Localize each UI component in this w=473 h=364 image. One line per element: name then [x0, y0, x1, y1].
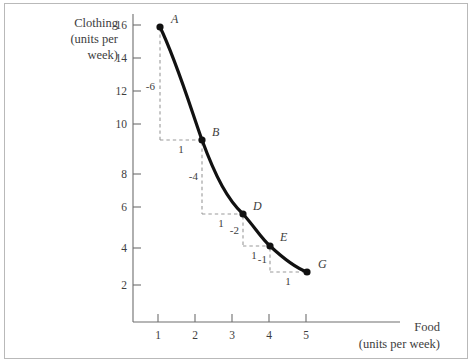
y-axis-title: Clothing (units per week) — [70, 16, 118, 62]
data-point-e[interactable] — [266, 242, 273, 249]
data-point-label-e: E — [279, 230, 288, 244]
x-tick-label-1: 1 — [155, 329, 161, 341]
x-tick-label-2: 2 — [192, 329, 198, 341]
run-d-to-e-label: 1 — [251, 249, 257, 261]
drop-b-to-d-label: -4 — [189, 170, 199, 182]
drop-d-to-e-label: -2 — [230, 224, 239, 236]
step-annotation-group: -6 1 -4 1 -2 1 -1 1 — [146, 28, 308, 287]
data-point-g[interactable] — [303, 268, 310, 275]
run-e-to-g-label: 1 — [285, 275, 291, 287]
run-a-to-b-label: 1 — [178, 143, 184, 155]
y-axis-title-line2: (units per — [70, 32, 118, 46]
y-tick-label-10: 10 — [116, 118, 128, 130]
data-point-label-a: A — [170, 12, 179, 26]
drop-e-to-g-label: -1 — [258, 253, 267, 265]
y-axis-title-line3: week) — [87, 48, 118, 62]
y-axis-title-line1: Clothing — [74, 16, 119, 30]
x-axis-title-line1: Food — [414, 320, 440, 334]
data-point-b[interactable] — [198, 136, 205, 143]
data-point-label-d: D — [252, 199, 262, 213]
data-point-d[interactable] — [239, 210, 246, 217]
y-tick-label-12: 12 — [116, 85, 128, 97]
y-tick-label-6: 6 — [121, 201, 127, 213]
y-tick-label-4: 4 — [121, 242, 127, 254]
y-tick-group: 16 14 12 10 8 6 4 2 — [116, 19, 142, 291]
y-tick-label-2: 2 — [121, 279, 127, 291]
drop-a-to-b-label: -6 — [146, 80, 156, 92]
data-point-label-g: G — [318, 257, 327, 271]
figure-container: 16 14 12 10 8 6 4 2 1 2 3 4 5 Clothing (… — [0, 0, 473, 364]
y-tick-label-8: 8 — [121, 168, 127, 180]
x-axis-title-line2: (units per week) — [359, 337, 440, 351]
x-tick-label-5: 5 — [303, 329, 309, 341]
x-tick-group: 1 2 3 4 5 — [155, 314, 309, 341]
run-b-to-d-label: 1 — [218, 217, 224, 229]
x-tick-label-3: 3 — [229, 329, 235, 341]
x-axis-title: Food (units per week) — [359, 320, 441, 351]
indifference-curve-chart: 16 14 12 10 8 6 4 2 1 2 3 4 5 Clothing (… — [0, 0, 473, 364]
x-tick-label-4: 4 — [266, 329, 272, 341]
data-point-a[interactable] — [156, 23, 163, 30]
data-point-label-b: B — [212, 125, 220, 139]
